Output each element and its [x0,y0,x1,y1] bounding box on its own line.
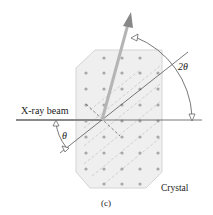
two-theta-arrow-top [131,34,138,41]
two-theta-label: 2θ [178,61,188,72]
diffracted-beam-arrowhead [123,12,133,28]
theta-label: θ [62,130,67,141]
crystal-label: Crystal [161,183,189,193]
figure-caption: (c) [101,198,111,208]
bragg-diffraction-diagram: X-ray beam θ 2θ Crystal (c) [0,0,213,215]
beam-label: X-ray beam [21,105,69,116]
